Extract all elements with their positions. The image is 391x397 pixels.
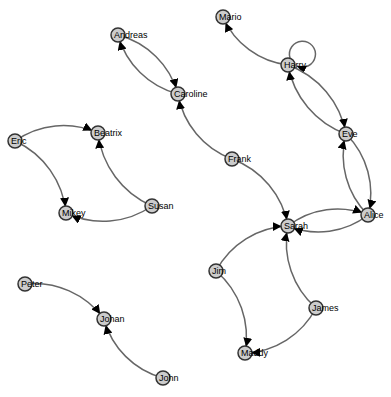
- node-andreas[interactable]: Andreas: [111, 28, 148, 42]
- node-label: Susan: [148, 201, 174, 211]
- node-label: Eric: [11, 136, 27, 146]
- node-label: Alice: [364, 210, 384, 220]
- node-john[interactable]: John: [156, 371, 179, 385]
- node-label: Jim: [212, 266, 226, 276]
- node-harry[interactable]: Harry: [281, 58, 306, 72]
- node-mario[interactable]: Mario: [216, 10, 242, 24]
- edge-harry-to-eve: [288, 65, 346, 134]
- network-graph: MarioAndreasHarryCarolineEricBeatrixEveF…: [0, 0, 391, 397]
- edge-frank-to-caroline: [178, 94, 232, 159]
- node-beatrix[interactable]: Beatrix: [91, 126, 123, 140]
- edge-andreas-to-caroline: [118, 35, 178, 94]
- edge-jim-to-maddy: [216, 271, 246, 353]
- links-layer: [15, 17, 371, 378]
- node-label: Frank: [228, 154, 252, 164]
- node-label: Beatrix: [94, 128, 123, 138]
- edge-jim-to-sarah: [216, 226, 288, 271]
- node-frank[interactable]: Frank: [225, 152, 252, 166]
- edge-james-to-maddy: [245, 308, 316, 353]
- node-james[interactable]: James: [309, 301, 339, 315]
- node-label: Caroline: [174, 89, 208, 99]
- node-sarah[interactable]: Sarah: [281, 219, 308, 233]
- node-label: Maddy: [241, 348, 269, 358]
- node-peter[interactable]: Peter: [18, 277, 43, 291]
- node-jim[interactable]: Jim: [209, 264, 226, 278]
- node-label: Mario: [219, 12, 242, 22]
- node-label: Harry: [284, 60, 306, 70]
- node-johan[interactable]: Johan: [97, 312, 125, 326]
- edge-frank-to-sarah: [232, 159, 288, 226]
- edge-john-to-johan: [104, 319, 163, 378]
- edge-eve-to-harry: [288, 65, 346, 134]
- edge-eric-to-beatrix: [15, 125, 98, 141]
- node-label: Johan: [100, 314, 125, 324]
- edge-eric-to-mikey: [15, 141, 66, 213]
- node-label: Andreas: [114, 30, 148, 40]
- node-eve[interactable]: Eve: [339, 127, 358, 141]
- node-caroline[interactable]: Caroline: [171, 87, 208, 101]
- nodes-layer: MarioAndreasHarryCarolineEricBeatrixEveF…: [8, 10, 384, 385]
- edge-james-to-sarah: [286, 226, 316, 308]
- node-label: Mikey: [62, 208, 86, 218]
- node-eric[interactable]: Eric: [8, 134, 27, 148]
- edge-harry-to-mario: [223, 17, 288, 65]
- node-label: Peter: [21, 279, 43, 289]
- node-susan[interactable]: Susan: [145, 199, 174, 213]
- edge-susan-to-beatrix: [98, 133, 152, 206]
- node-alice[interactable]: Alice: [361, 208, 384, 222]
- node-mikey[interactable]: Mikey: [59, 206, 86, 220]
- node-maddy[interactable]: Maddy: [238, 346, 269, 360]
- node-label: John: [159, 373, 179, 383]
- edge-caroline-to-andreas: [118, 35, 178, 94]
- node-label: Eve: [342, 129, 358, 139]
- node-label: James: [312, 303, 339, 313]
- node-label: Sarah: [284, 221, 308, 231]
